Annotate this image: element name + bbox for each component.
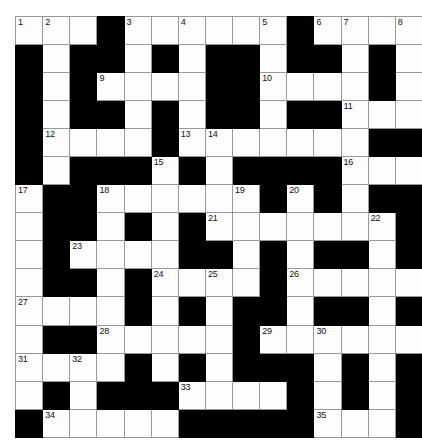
crossword-cell[interactable] [233,241,260,269]
crossword-cell[interactable]: 25 [205,269,232,297]
crossword-cell[interactable] [205,353,232,381]
crossword-cell[interactable] [341,45,368,73]
crossword-cell[interactable] [287,73,314,101]
crossword-cell[interactable] [260,129,287,157]
crossword-cell[interactable]: 34 [43,409,70,437]
crossword-cell[interactable] [205,381,232,409]
crossword-cell[interactable] [151,241,178,269]
crossword-cell[interactable] [124,185,151,213]
crossword-cell[interactable] [233,381,260,409]
crossword-cell[interactable] [341,185,368,213]
crossword-cell[interactable] [151,353,178,381]
crossword-cell[interactable] [43,353,70,381]
crossword-cell[interactable] [233,269,260,297]
crossword-cell[interactable]: 17 [16,185,43,213]
crossword-cell[interactable] [178,45,205,73]
crossword-cell[interactable] [124,101,151,129]
crossword-cell[interactable]: 23 [70,241,97,269]
crossword-cell[interactable] [178,269,205,297]
crossword-cell[interactable] [124,73,151,101]
crossword-cell[interactable] [124,241,151,269]
crossword-cell[interactable] [368,381,395,409]
crossword-cell[interactable]: 22 [368,213,395,241]
crossword-cell[interactable] [287,297,314,325]
crossword-cell[interactable]: 14 [205,129,232,157]
crossword-cell[interactable] [205,325,232,353]
crossword-cell[interactable] [368,101,395,129]
crossword-cell[interactable]: 5 [260,17,287,45]
crossword-cell[interactable]: 24 [151,269,178,297]
crossword-cell[interactable] [395,157,422,185]
crossword-cell[interactable] [341,213,368,241]
crossword-cell[interactable] [233,129,260,157]
crossword-cell[interactable] [395,269,422,297]
crossword-cell[interactable] [16,241,43,269]
crossword-cell[interactable]: 4 [178,17,205,45]
crossword-cell[interactable]: 6 [314,17,341,45]
crossword-cell[interactable] [43,73,70,101]
crossword-cell[interactable] [368,157,395,185]
crossword-cell[interactable]: 21 [205,213,232,241]
crossword-cell[interactable] [70,17,97,45]
crossword-cell[interactable] [124,325,151,353]
crossword-cell[interactable] [124,129,151,157]
crossword-cell[interactable] [395,45,422,73]
crossword-cell[interactable] [314,353,341,381]
crossword-cell[interactable] [16,381,43,409]
crossword-cell[interactable]: 30 [314,325,341,353]
crossword-cell[interactable] [70,297,97,325]
crossword-cell[interactable] [287,241,314,269]
crossword-cell[interactable]: 33 [178,381,205,409]
crossword-cell[interactable] [368,269,395,297]
crossword-cell[interactable] [178,185,205,213]
crossword-cell[interactable] [151,73,178,101]
crossword-cell[interactable] [97,269,124,297]
crossword-cell[interactable] [341,409,368,437]
crossword-cell[interactable] [178,325,205,353]
crossword-cell[interactable] [260,101,287,129]
crossword-cell[interactable]: 13 [178,129,205,157]
crossword-cell[interactable] [368,325,395,353]
crossword-cell[interactable] [287,213,314,241]
crossword-cell[interactable]: 3 [124,17,151,45]
crossword-cell[interactable]: 20 [287,185,314,213]
crossword-cell[interactable] [151,409,178,437]
crossword-cell[interactable] [97,353,124,381]
crossword-cell[interactable] [97,297,124,325]
crossword-cell[interactable]: 19 [233,185,260,213]
crossword-cell[interactable] [287,325,314,353]
crossword-cell[interactable]: 11 [341,101,368,129]
crossword-cell[interactable] [43,157,70,185]
crossword-cell[interactable] [97,409,124,437]
crossword-cell[interactable]: 12 [43,129,70,157]
crossword-cell[interactable] [16,213,43,241]
crossword-cell[interactable] [16,325,43,353]
crossword-cell[interactable]: 2 [43,17,70,45]
crossword-cell[interactable] [151,17,178,45]
crossword-cell[interactable]: 8 [395,17,422,45]
crossword-cell[interactable] [395,101,422,129]
crossword-cell[interactable]: 27 [16,297,43,325]
crossword-cell[interactable]: 7 [341,17,368,45]
crossword-cell[interactable] [395,325,422,353]
crossword-cell[interactable] [314,73,341,101]
crossword-cell[interactable] [205,157,232,185]
crossword-cell[interactable] [97,129,124,157]
crossword-cell[interactable] [368,353,395,381]
crossword-cell[interactable] [124,45,151,73]
crossword-cell[interactable] [70,129,97,157]
crossword-cell[interactable] [260,45,287,73]
crossword-cell[interactable] [151,325,178,353]
crossword-cell[interactable]: 15 [151,157,178,185]
crossword-cell[interactable] [97,241,124,269]
crossword-cell[interactable] [314,381,341,409]
crossword-cell[interactable]: 18 [97,185,124,213]
crossword-cell[interactable] [205,185,232,213]
crossword-cell[interactable] [341,73,368,101]
crossword-cell[interactable] [97,213,124,241]
crossword-cell[interactable] [43,297,70,325]
crossword-cell[interactable] [368,17,395,45]
crossword-cell[interactable]: 10 [260,73,287,101]
crossword-cell[interactable] [368,241,395,269]
crossword-cell[interactable] [287,129,314,157]
